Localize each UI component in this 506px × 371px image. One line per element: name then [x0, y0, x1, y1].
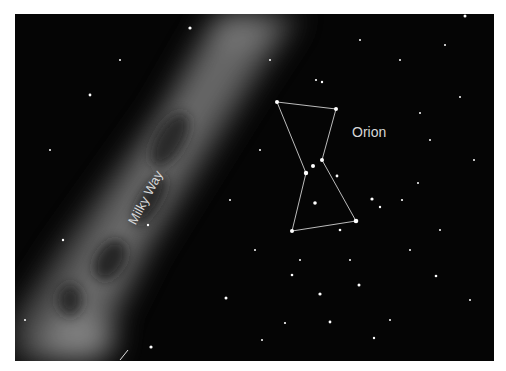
sky-canvas: [15, 14, 494, 361]
orion-label: Orion: [352, 124, 386, 140]
night-sky-photo: Orion Milky Way: [15, 14, 494, 361]
